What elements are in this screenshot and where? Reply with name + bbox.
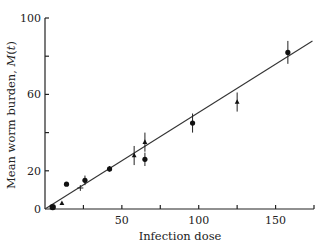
y-tick-label: 0	[34, 203, 41, 216]
data-point-triangle	[60, 200, 65, 205]
y-tick-label: 60	[27, 88, 41, 101]
data-point-triangle	[143, 133, 148, 152]
x-axis-title: Infection dose	[139, 229, 222, 243]
axes: 5010015002060100	[20, 12, 314, 227]
circle-marker	[142, 157, 147, 162]
data-point-triangle	[235, 92, 240, 111]
triangle-marker	[235, 99, 240, 104]
triangle-marker	[60, 200, 65, 205]
scatter-chart: 5010015002060100 Infection dose Mean wor…	[0, 0, 324, 248]
circle-marker	[190, 120, 195, 125]
data-point-circle	[142, 153, 147, 166]
triangle-marker	[143, 139, 148, 144]
data-point-circle	[49, 204, 55, 210]
circle-marker	[107, 166, 112, 171]
data-point-circle	[190, 114, 195, 133]
x-tick-label: 50	[115, 214, 129, 227]
y-tick-label: 100	[20, 12, 41, 25]
data-points	[49, 41, 290, 210]
y-axis-title: Mean worm burden, M(t)	[4, 41, 18, 189]
x-tick-label: 150	[265, 214, 286, 227]
circle-marker	[64, 182, 69, 187]
data-point-circle	[82, 176, 87, 186]
x-tick-label: 100	[188, 214, 209, 227]
data-point-circle	[285, 41, 290, 64]
y-tick-label: 20	[27, 165, 41, 178]
circle-marker	[285, 50, 290, 55]
data-point-triangle	[132, 146, 137, 165]
circle-marker	[49, 204, 55, 210]
circle-marker	[82, 178, 87, 183]
data-point-circle	[64, 182, 69, 187]
